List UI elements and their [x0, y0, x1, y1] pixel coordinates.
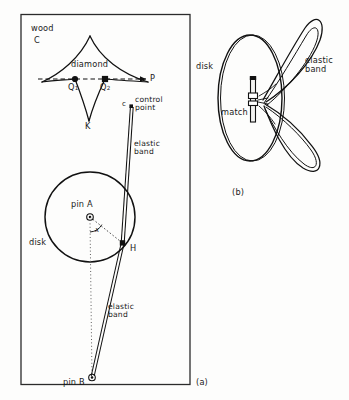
label-point-q1-letter: Q	[68, 82, 75, 92]
caption-panel-a: (a)	[196, 378, 208, 387]
label-elastic-band-panel-b: elastic band	[305, 56, 333, 74]
figure-canvas: wood C diamond Q1 Q2 P K c control point…	[0, 0, 349, 400]
label-diamond: diamond	[71, 60, 108, 69]
label-angle-x: x	[95, 226, 99, 234]
label-point-p: P	[150, 74, 155, 83]
label-pin-a: pin A	[71, 200, 93, 209]
panel-b-match	[249, 76, 258, 122]
label-elastic-band-lower: elastic band	[108, 303, 134, 319]
label-disk-panel-b: disk	[196, 62, 213, 71]
panel-a-frame	[21, 15, 190, 385]
caption-panel-b: (b)	[232, 188, 244, 197]
label-point-q1-subscript: 1	[75, 85, 79, 91]
elastic-band-upper	[121, 107, 133, 243]
figure-drawing	[0, 0, 349, 400]
label-wood-point-c: C	[34, 36, 40, 45]
label-pin-b: pin B	[63, 378, 85, 387]
label-control-point: control point	[135, 96, 163, 112]
label-point-q2-letter: Q	[100, 82, 107, 92]
reference-line-vertical	[90, 220, 92, 378]
label-cusp-k: K	[85, 122, 91, 131]
label-elastic-band-upper: elastic band	[134, 140, 160, 156]
label-point-q1: Q1	[68, 83, 78, 92]
label-control-marker: c	[122, 100, 126, 108]
label-wood: wood	[31, 24, 54, 33]
pin-b-marker	[89, 374, 96, 381]
label-point-h: H	[130, 244, 136, 253]
label-point-q2: Q2	[100, 83, 110, 92]
label-point-q2-subscript: 2	[107, 85, 111, 91]
label-disk-panel-a: disk	[29, 238, 46, 247]
label-match: match	[221, 108, 248, 117]
